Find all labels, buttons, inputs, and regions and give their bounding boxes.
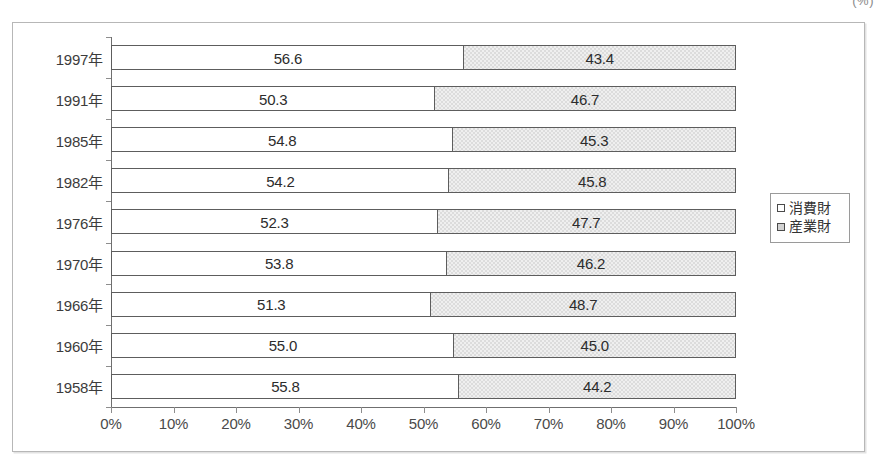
bar-segment-consumer: 54.2 <box>111 168 450 193</box>
x-axis-tick-label: 90% <box>659 415 688 432</box>
bar-value-label: 50.3 <box>259 92 287 107</box>
stacked-bar: 55.045.0 <box>111 333 736 358</box>
x-axis-tick <box>299 407 300 413</box>
bar-segment-consumer: 55.0 <box>111 333 455 358</box>
chart-frame: 0%10%20%30%40%50%60%70%80%90%100% 1997年5… <box>12 22 865 452</box>
bar-segment-consumer: 52.3 <box>111 209 438 234</box>
unit-annotation: (%) <box>852 0 874 8</box>
y-axis-category-label: 1966年 <box>56 294 103 315</box>
stacked-bar: 53.846.2 <box>111 251 736 276</box>
bar-segment-industrial: 45.0 <box>453 333 736 358</box>
y-axis-category-label: 1960年 <box>56 335 103 356</box>
legend-item[interactable]: 消費財 <box>777 199 843 217</box>
x-axis-tick-label: 60% <box>471 415 500 432</box>
bar-value-label: 55.0 <box>269 338 297 353</box>
bar-value-label: 53.8 <box>265 256 293 271</box>
stacked-bar: 54.845.3 <box>111 127 736 152</box>
bar-row: 1982年54.245.8 <box>111 160 736 201</box>
bar-value-label: 44.2 <box>583 379 611 394</box>
x-axis-tick-label: 50% <box>409 415 438 432</box>
plot-area: 0%10%20%30%40%50%60%70%80%90%100% 1997年5… <box>111 37 736 407</box>
bar-row: 1966年51.348.7 <box>111 284 736 325</box>
x-axis-tick-label: 30% <box>284 415 313 432</box>
bar-segment-industrial: 43.4 <box>463 45 736 70</box>
bar-value-label: 51.3 <box>257 297 285 312</box>
x-axis-tick-label: 0% <box>100 415 121 432</box>
y-axis-category-label: 1985年 <box>56 129 103 150</box>
bar-value-label: 48.7 <box>569 297 597 312</box>
legend-item[interactable]: 産業財 <box>777 217 843 235</box>
bar-row: 1997年56.643.4 <box>111 37 736 78</box>
gray-square-icon <box>777 223 785 231</box>
bar-value-label: 47.7 <box>572 215 600 230</box>
x-axis-tick <box>549 407 550 413</box>
x-axis-tick <box>174 407 175 413</box>
bar-value-label: 55.8 <box>271 379 299 394</box>
bar-row: 1960年55.045.0 <box>111 325 736 366</box>
bar-value-label: 54.8 <box>268 133 296 148</box>
stacked-bar: 52.347.7 <box>111 209 736 234</box>
bar-value-label: 43.4 <box>586 51 614 66</box>
x-axis-tick <box>674 407 675 413</box>
bar-row: 1991年50.346.7 <box>111 78 736 119</box>
bar-value-label: 54.2 <box>266 174 294 189</box>
legend-item-label: 消費財 <box>789 199 831 217</box>
bar-value-label: 45.8 <box>578 174 606 189</box>
x-axis-tick <box>111 407 112 413</box>
x-axis-tick <box>611 407 612 413</box>
bar-segment-industrial: 48.7 <box>430 292 736 317</box>
chart-legend: 消費財産業財 <box>770 193 850 243</box>
bar-value-label: 56.6 <box>274 51 302 66</box>
chart-page: (%) 0%10%20%30%40%50%60%70%80%90%100% 19… <box>0 0 883 465</box>
x-axis-tick-label: 100% <box>717 415 755 432</box>
stacked-bar: 50.346.7 <box>111 86 736 111</box>
bar-segment-industrial: 45.3 <box>452 127 736 152</box>
x-axis-tick <box>486 407 487 413</box>
bar-value-label: 46.7 <box>571 92 599 107</box>
bar-value-label: 46.2 <box>577 256 605 271</box>
bar-row: 1958年55.844.2 <box>111 366 736 407</box>
bar-segment-industrial: 45.8 <box>448 168 736 193</box>
bar-segment-industrial: 46.7 <box>434 86 736 111</box>
y-axis-category-label: 1976年 <box>56 211 103 232</box>
x-axis-tick <box>236 407 237 413</box>
bar-segment-consumer: 56.6 <box>111 45 465 70</box>
bar-value-label: 45.0 <box>581 338 609 353</box>
x-axis-tick-label: 40% <box>346 415 375 432</box>
stacked-bar: 56.643.4 <box>111 45 736 70</box>
y-axis-category-label: 1958年 <box>56 376 103 397</box>
bar-segment-consumer: 53.8 <box>111 251 447 276</box>
y-axis-category-label: 1970年 <box>56 253 103 274</box>
x-axis-tick-label: 20% <box>221 415 250 432</box>
bar-row: 1970年53.846.2 <box>111 243 736 284</box>
x-axis-tick <box>361 407 362 413</box>
bar-segment-consumer: 51.3 <box>111 292 432 317</box>
x-axis-tick-label: 10% <box>159 415 188 432</box>
bar-row: 1985年54.845.3 <box>111 119 736 160</box>
y-axis-category-label: 1982年 <box>56 170 103 191</box>
x-axis-tick-label: 70% <box>534 415 563 432</box>
bar-value-label: 45.3 <box>580 133 608 148</box>
bar-row: 1976年52.347.7 <box>111 201 736 242</box>
y-axis-category-label: 1991年 <box>56 88 103 109</box>
bar-segment-consumer: 54.8 <box>111 127 454 152</box>
bar-segment-consumer: 55.8 <box>111 374 460 399</box>
white-square-icon <box>777 204 785 212</box>
bar-value-label: 52.3 <box>260 215 288 230</box>
x-axis-tick <box>736 407 737 413</box>
stacked-bar: 55.844.2 <box>111 374 736 399</box>
stacked-bar: 54.245.8 <box>111 168 736 193</box>
bar-segment-industrial: 44.2 <box>458 374 736 399</box>
bar-segment-consumer: 50.3 <box>111 86 435 111</box>
bar-segment-industrial: 47.7 <box>437 209 736 234</box>
bar-segment-industrial: 46.2 <box>446 251 736 276</box>
x-axis-tick <box>424 407 425 413</box>
y-axis-category-label: 1997年 <box>56 47 103 68</box>
stacked-bar: 51.348.7 <box>111 292 736 317</box>
x-axis-tick-label: 80% <box>596 415 625 432</box>
legend-item-label: 産業財 <box>789 217 831 235</box>
